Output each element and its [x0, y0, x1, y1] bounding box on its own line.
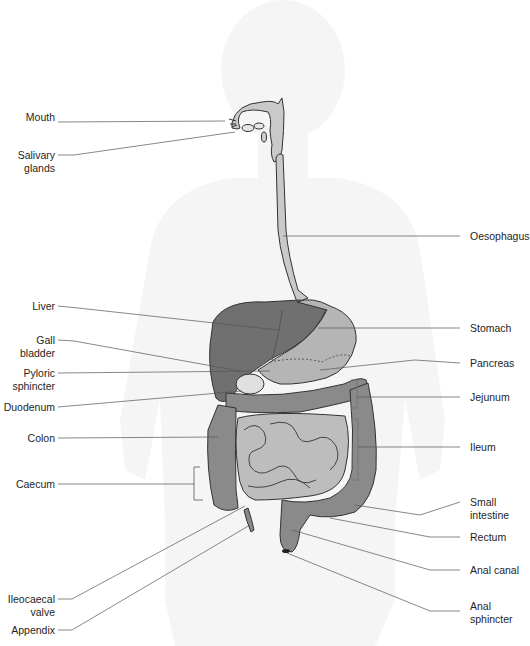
anal-sphincter-shape: [282, 549, 290, 553]
label-pyloric-sphincter: Pyloric sphincter: [12, 367, 55, 393]
label-pancreas: Pancreas: [470, 357, 514, 370]
label-appendix: Appendix: [11, 624, 55, 637]
label-small-intestine: Small intestine: [470, 496, 509, 522]
label-jejunum: Jejunum: [470, 391, 510, 404]
label-liver: Liver: [32, 300, 55, 313]
label-duodenum: Duodenum: [4, 401, 55, 414]
label-oesophagus: Oesophagus: [470, 230, 530, 243]
ascending-colon: [208, 405, 238, 510]
label-caecum: Caecum: [16, 478, 55, 491]
label-anal-canal: Anal canal: [470, 564, 519, 577]
label-salivary-glands: Salivary glands: [18, 149, 55, 175]
label-mouth: Mouth: [26, 111, 55, 124]
label-gall-bladder: Gall bladder: [0, 334, 55, 360]
small-intestine: [236, 413, 349, 500]
label-colon: Colon: [28, 432, 55, 445]
label-stomach: Stomach: [470, 322, 511, 335]
label-rectum: Rectum: [470, 531, 506, 544]
label-anal-sphincter: Anal sphincter: [470, 600, 513, 626]
label-ileum: Ileum: [470, 441, 496, 454]
label-ileocaecal-valve: Ileocaecal valve: [8, 593, 55, 619]
